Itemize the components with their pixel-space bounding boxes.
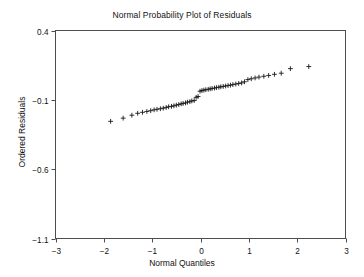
y-tick-label: −1.1 [32, 236, 49, 245]
data-point-marker [288, 66, 293, 71]
data-point-marker [152, 107, 157, 112]
data-point-marker [279, 71, 284, 76]
data-point-marker [233, 82, 238, 87]
x-tick-label: 3 [344, 247, 349, 256]
y-tick-label: 0.4 [37, 28, 49, 37]
data-point-marker [239, 81, 244, 86]
x-tick-label: 0 [199, 247, 204, 256]
x-tick-label: 2 [295, 247, 300, 256]
data-point-marker [148, 108, 153, 113]
data-point-marker [169, 104, 174, 109]
x-tick-label: −1 [148, 247, 158, 256]
data-point-marker [257, 75, 262, 80]
data-point-marker [174, 103, 179, 108]
y-axis-ticks: 0.4−0.1−0.6−1.1 [32, 28, 55, 245]
data-point-marker [176, 102, 181, 107]
y-axis-label: Ordered Residuals [17, 62, 27, 202]
data-point-marker [144, 109, 149, 114]
data-point-marker [155, 107, 160, 112]
x-tick-label: 1 [247, 247, 252, 256]
plot-frame [56, 31, 346, 239]
data-point-marker [261, 74, 266, 79]
data-point-marker [161, 106, 166, 111]
x-tick-label: −2 [100, 247, 110, 256]
data-point-marker [272, 72, 277, 77]
data-point-marker [245, 77, 250, 82]
data-point-marker [249, 76, 254, 81]
data-point-marker [158, 106, 163, 111]
x-axis-ticks: −3−2−10123 [52, 239, 349, 256]
data-point-marker [135, 111, 140, 116]
data-point-marker [121, 116, 126, 121]
x-tick-label: −3 [52, 247, 62, 256]
data-point-marker [108, 119, 113, 124]
data-points [108, 64, 311, 124]
data-point-marker [172, 103, 177, 108]
data-point-marker [242, 79, 247, 84]
chart-figure: Normal Probability Plot of Residuals −3−… [0, 0, 364, 277]
x-axis-label: Normal Quantiles [0, 258, 364, 268]
data-point-marker [236, 81, 241, 86]
data-point-marker [266, 73, 271, 78]
data-point-marker [228, 83, 233, 88]
data-point-marker [306, 64, 311, 69]
data-point-marker [230, 82, 235, 87]
data-point-marker [140, 110, 145, 115]
y-tick-label: −0.1 [32, 97, 49, 106]
data-point-marker [253, 76, 258, 81]
data-point-marker [164, 105, 169, 110]
data-point-marker [129, 113, 134, 118]
normal-probability-plot: −3−2−10123 0.4−0.1−0.6−1.1 [0, 0, 364, 277]
y-tick-label: −0.6 [32, 166, 49, 175]
